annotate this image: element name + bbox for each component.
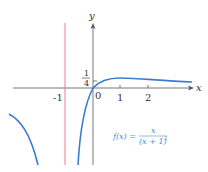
formula-numerator: x <box>151 126 156 135</box>
function-graph: y x -1 0 1 2 1 4 f(x) = x (x + 1) 2 <box>0 0 208 172</box>
x-tick-label-neg1: -1 <box>53 92 63 103</box>
x-tick-label-0: 0 <box>95 90 101 101</box>
formula-exponent: 2 <box>163 135 167 141</box>
x-axis-label: x <box>196 82 202 93</box>
y-tick-label-numerator: 1 <box>84 69 89 78</box>
y-axis-label: y <box>88 10 95 21</box>
curve-left-branch <box>9 114 38 165</box>
y-tick-label-denominator: 4 <box>84 79 89 88</box>
formula-denominator: (x + 1) <box>139 137 167 146</box>
formula-lhs: f(x) = <box>112 132 136 141</box>
x-tick-label-2: 2 <box>145 92 151 103</box>
x-tick-label-1: 1 <box>117 92 123 103</box>
